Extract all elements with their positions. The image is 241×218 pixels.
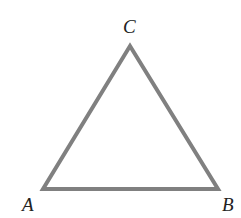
vertex-label-a: A <box>20 194 34 215</box>
vertex-label-c: C <box>123 16 136 37</box>
triangle-figure: C A B <box>0 0 241 218</box>
triangle-diagram: C A B <box>0 0 241 218</box>
vertex-label-b: B <box>222 194 234 215</box>
triangle-abc <box>43 46 218 189</box>
